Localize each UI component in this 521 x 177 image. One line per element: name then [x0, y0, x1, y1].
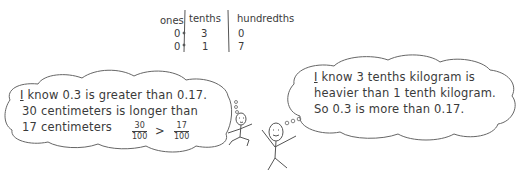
fraction-30-100-den: 100 — [132, 132, 147, 142]
thought-dots — [235, 101, 301, 125]
left-line-1-rest: know 0.3 is greater than 0.17. — [24, 88, 208, 102]
right-line-3: So 0.3 is more than 0.17. — [314, 102, 464, 117]
header-tenths: tenths — [189, 13, 221, 25]
fraction-17-100-num: 17 — [174, 121, 189, 132]
fraction-17-100-den: 100 — [174, 132, 189, 142]
right-line-1: I know 3 tenths kilogram is — [314, 70, 475, 85]
left-line-2: 30 centimeters is longer than — [22, 104, 198, 119]
stick-figure-right — [262, 123, 296, 170]
row2-tenths: 1 — [202, 41, 208, 53]
header-ones: ones — [160, 15, 184, 27]
left-line-1: I know 0.3 is greater than 0.17. — [20, 88, 207, 103]
fraction-30-100: 30 100 — [132, 121, 147, 142]
fraction-17-100: 17 100 — [174, 121, 189, 142]
row1-ones: 0 — [174, 28, 180, 40]
right-line-1-rest: know 3 tenths kilogram is — [318, 70, 475, 84]
row1-hundredths: 0 — [238, 28, 244, 40]
greater-than-sign: > — [155, 124, 165, 139]
row2-ones: 0 — [174, 41, 180, 53]
header-hundredths: hundredths — [237, 13, 294, 25]
right-line-2: heavier than 1 tenth kilogram. — [314, 86, 496, 101]
row1-tenths: 3 — [201, 28, 207, 40]
left-line-3: 17 centimeters — [22, 120, 112, 135]
row2-hundredths: 7 — [238, 41, 244, 53]
fraction-30-100-num: 30 — [132, 121, 147, 132]
